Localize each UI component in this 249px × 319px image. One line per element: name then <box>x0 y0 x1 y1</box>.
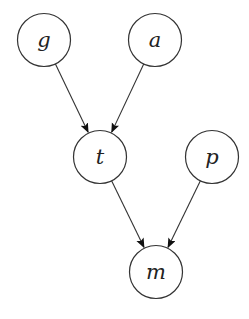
diagram-canvas: g a t p m <box>0 0 249 319</box>
node-m-label: m <box>146 260 166 284</box>
node-g: g <box>18 14 71 67</box>
edge-a-to-t <box>112 64 144 132</box>
edge-g-to-t <box>55 64 88 132</box>
node-a: a <box>129 14 182 67</box>
nodes: g a t p m <box>18 14 239 299</box>
node-t-label: t <box>96 145 105 169</box>
node-g-label: g <box>37 28 50 52</box>
node-t: t <box>74 131 127 184</box>
node-p-label: p <box>205 145 218 169</box>
edge-t-to-m <box>112 181 144 247</box>
node-p: p <box>186 131 239 184</box>
edge-p-to-m <box>168 181 200 247</box>
node-m: m <box>130 246 183 299</box>
node-a-label: a <box>149 28 162 52</box>
